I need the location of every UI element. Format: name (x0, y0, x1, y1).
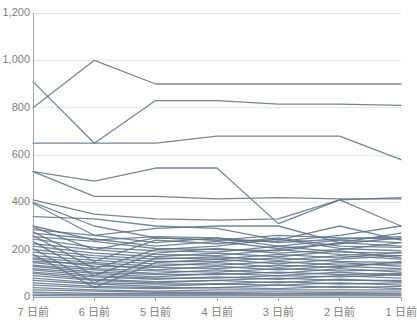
x-tick-label: 4 日前 (201, 307, 232, 318)
x-tick-label: 2 日前 (324, 307, 355, 318)
x-tick-label: 3 日前 (263, 307, 294, 318)
x-tick-label: 6 日前 (79, 307, 110, 318)
x-tick-label: 5 日前 (140, 307, 171, 318)
x-tick-label: 7 日前 (17, 307, 48, 318)
x-tick-label: 1 日前 (385, 307, 416, 318)
